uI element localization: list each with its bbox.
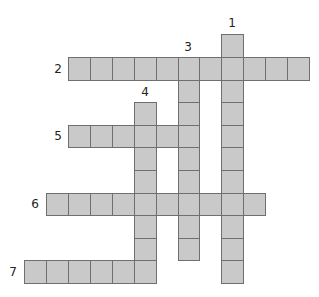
crossword-cell[interactable] xyxy=(221,34,244,58)
crossword-cell[interactable] xyxy=(221,57,244,81)
crossword-cell[interactable] xyxy=(134,147,157,171)
clue-number-5: 5 xyxy=(51,130,65,142)
crossword-cell[interactable] xyxy=(178,147,200,171)
crossword-cell[interactable] xyxy=(112,57,135,81)
crossword-cell[interactable] xyxy=(68,193,91,216)
clue-number-4: 4 xyxy=(138,86,152,98)
clue-number-3: 3 xyxy=(181,41,195,53)
crossword-cell[interactable] xyxy=(134,125,157,148)
clue-number-7: 7 xyxy=(6,266,20,278)
crossword-cell[interactable] xyxy=(221,238,244,261)
crossword-cell[interactable] xyxy=(199,193,222,216)
crossword-cell[interactable] xyxy=(221,260,244,284)
crossword-cell[interactable] xyxy=(178,215,200,239)
crossword-cell[interactable] xyxy=(221,193,244,216)
crossword-cell[interactable] xyxy=(134,238,157,261)
crossword-cell[interactable] xyxy=(221,102,244,126)
crossword-cell[interactable] xyxy=(90,125,113,148)
crossword-cell[interactable] xyxy=(46,193,69,216)
crossword-cell[interactable] xyxy=(287,57,310,81)
crossword-cell[interactable] xyxy=(134,193,157,216)
crossword-cell[interactable] xyxy=(243,57,266,81)
clue-number-6: 6 xyxy=(28,198,42,210)
crossword-cell[interactable] xyxy=(221,170,244,194)
crossword-cell[interactable] xyxy=(221,147,244,171)
crossword-cell[interactable] xyxy=(68,57,91,81)
crossword-cell[interactable] xyxy=(156,57,179,81)
crossword-cell[interactable] xyxy=(134,215,157,239)
crossword-cell[interactable] xyxy=(68,260,91,284)
clue-number-2: 2 xyxy=(51,63,65,75)
crossword-cell[interactable] xyxy=(265,57,288,81)
crossword-cell[interactable] xyxy=(90,260,113,284)
crossword-cell[interactable] xyxy=(24,260,47,284)
crossword-cell[interactable] xyxy=(178,238,200,261)
crossword-cell[interactable] xyxy=(221,215,244,239)
crossword-cell[interactable] xyxy=(221,80,244,103)
crossword-cell[interactable] xyxy=(90,193,113,216)
crossword-cell[interactable] xyxy=(134,170,157,194)
crossword-cell[interactable] xyxy=(134,57,157,81)
crossword-cell[interactable] xyxy=(221,125,244,148)
crossword-cell[interactable] xyxy=(178,102,200,126)
crossword-cell[interactable] xyxy=(243,193,266,216)
crossword-cell[interactable] xyxy=(46,260,69,284)
crossword-cell[interactable] xyxy=(112,260,135,284)
crossword-cell[interactable] xyxy=(156,193,179,216)
crossword-cell[interactable] xyxy=(199,57,222,81)
crossword-grid: 1234567 xyxy=(0,0,319,297)
crossword-cell[interactable] xyxy=(178,125,200,148)
crossword-cell[interactable] xyxy=(68,125,91,148)
crossword-cell[interactable] xyxy=(90,57,113,81)
crossword-cell[interactable] xyxy=(112,125,135,148)
clue-number-1: 1 xyxy=(225,17,239,29)
crossword-cell[interactable] xyxy=(134,102,157,126)
crossword-cell[interactable] xyxy=(112,193,135,216)
crossword-cell[interactable] xyxy=(178,80,200,103)
crossword-cell[interactable] xyxy=(156,125,179,148)
crossword-cell[interactable] xyxy=(178,170,200,194)
crossword-cell[interactable] xyxy=(178,193,200,216)
crossword-cell[interactable] xyxy=(134,260,157,284)
crossword-cell[interactable] xyxy=(178,57,200,81)
